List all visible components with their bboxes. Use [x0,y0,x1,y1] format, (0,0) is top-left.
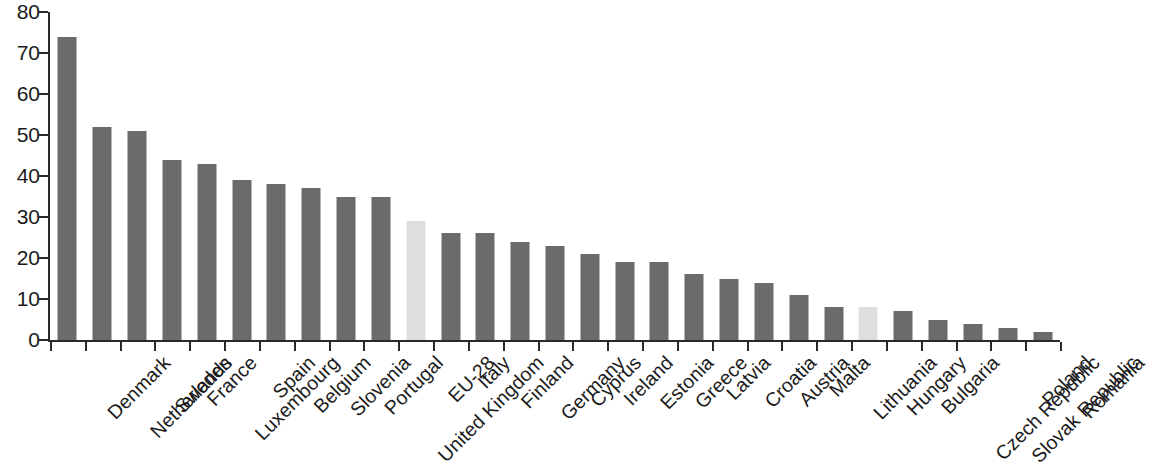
x-tick-mark [1025,342,1027,351]
bar-slot [259,12,294,340]
bar [894,311,913,340]
bar-slot [189,12,224,340]
bar [371,197,390,341]
x-tick-mark [433,342,435,351]
plot-area: 01020304050607080 [48,12,1060,340]
bar [337,197,356,341]
y-tick-label: 20 [0,247,40,268]
bar-slot [224,12,259,340]
bar-slot [642,12,677,340]
x-tick-mark [956,342,958,351]
bar-slot [990,12,1025,340]
bar-slot [816,12,851,340]
bar-slot [572,12,607,340]
bar-slot [921,12,956,340]
bar [720,279,739,341]
bar [545,246,564,340]
x-tick-mark [816,342,818,351]
bar [1033,332,1052,340]
x-tick-mark [189,342,191,351]
bar [580,254,599,340]
bar-series [50,12,1060,340]
bar-slot [433,12,468,340]
y-tick-mark [39,257,48,259]
bar [859,307,878,340]
bar-slot [851,12,886,340]
bar-slot [503,12,538,340]
x-tick-mark [363,342,365,351]
bar-slot [607,12,642,340]
x-tick-mark [921,342,923,351]
y-axis-tick-labels: 01020304050607080 [0,12,40,340]
bar-slot [781,12,816,340]
y-tick-mark [39,93,48,95]
x-tick-mark [886,342,888,351]
bar [302,188,321,340]
y-tick-mark [39,339,48,341]
x-tick-mark [607,342,609,351]
bar [441,233,460,340]
x-tick-mark [503,342,505,351]
y-tick-label: 40 [0,165,40,186]
bar-slot [398,12,433,340]
bar-slot [747,12,782,340]
bar-slot [363,12,398,340]
y-tick-mark [39,216,48,218]
bar-slot [329,12,364,340]
bar [754,283,773,340]
x-tick-mark [85,342,87,351]
bar-slot [468,12,503,340]
y-tick-label: 60 [0,83,40,104]
y-tick-mark [39,175,48,177]
bar-slot [538,12,573,340]
y-tick-label: 10 [0,288,40,309]
y-tick-label: 50 [0,124,40,145]
bar [128,131,147,340]
y-tick-mark [39,11,48,13]
x-tick-mark [50,342,52,351]
bar [476,233,495,340]
bar [789,295,808,340]
x-tick-mark [712,342,714,351]
x-axis-line [48,340,1060,342]
bar [58,37,77,340]
bar [162,160,181,340]
x-tick-mark [259,342,261,351]
x-tick-mark [851,342,853,351]
bar [232,180,251,340]
x-tick-mark [1060,342,1062,351]
x-tick-mark [294,342,296,351]
bar-slot [677,12,712,340]
y-tick-mark [39,52,48,54]
x-tick-mark [747,342,749,351]
x-tick-mark [224,342,226,351]
bar [824,307,843,340]
bar [929,320,948,341]
y-tick-mark [39,298,48,300]
bar [511,242,530,340]
y-tick-label: 70 [0,42,40,63]
bar [685,274,704,340]
bar [998,328,1017,340]
x-tick-mark [154,342,156,351]
bar-slot [294,12,329,340]
x-tick-mark [990,342,992,351]
bar-slot [50,12,85,340]
bar [93,127,112,340]
y-tick-label: 80 [0,1,40,22]
x-tick-mark [468,342,470,351]
bar-slot [154,12,189,340]
bar-slot [85,12,120,340]
bar [963,324,982,340]
bar-slot [886,12,921,340]
bar-slot [120,12,155,340]
x-tick-mark [781,342,783,351]
bar-slot [1025,12,1060,340]
x-tick-mark [572,342,574,351]
bar-slot [712,12,747,340]
bar [650,262,669,340]
y-tick-mark [39,134,48,136]
bar [267,184,286,340]
y-tick-label: 30 [0,206,40,227]
